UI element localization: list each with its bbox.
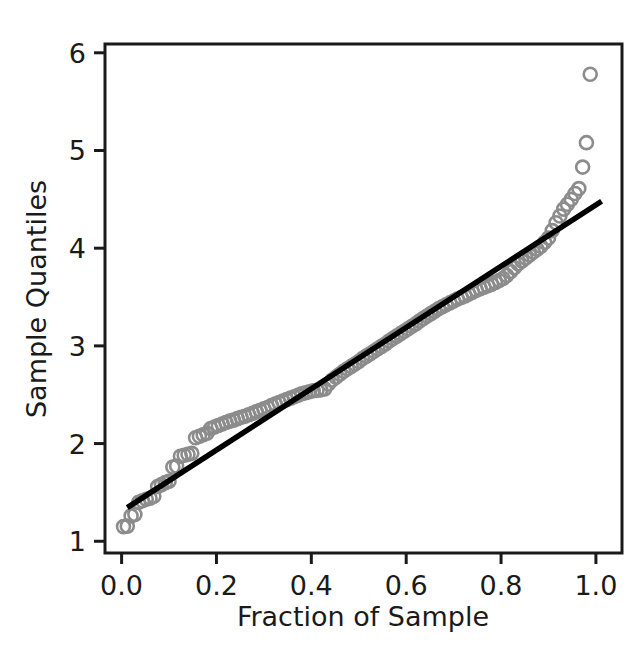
y-tick-label: 4 xyxy=(69,233,86,264)
y-tick-label: 1 xyxy=(69,526,86,557)
x-tick-label: 0.6 xyxy=(385,570,428,601)
y-tick-label: 3 xyxy=(69,331,86,362)
plot-frame xyxy=(105,44,622,553)
y-tick-label: 5 xyxy=(69,135,86,166)
x-tick-label: 0.2 xyxy=(195,570,238,601)
y-axis-label: Sample Quantiles xyxy=(21,180,52,418)
x-tick-label: 0.0 xyxy=(100,570,143,601)
x-tick-label: 0.4 xyxy=(290,570,333,601)
x-tick-label: 0.8 xyxy=(480,570,523,601)
y-tick-label: 2 xyxy=(69,429,86,460)
x-tick-label: 1.0 xyxy=(574,570,617,601)
chart-canvas: 0.00.20.40.60.81.0 123456 Fraction of Sa… xyxy=(0,0,642,648)
x-axis-label: Fraction of Sample xyxy=(237,601,489,632)
y-tick-label: 6 xyxy=(69,38,86,69)
qq-plot-figure: 0.00.20.40.60.81.0 123456 Fraction of Sa… xyxy=(0,0,642,648)
